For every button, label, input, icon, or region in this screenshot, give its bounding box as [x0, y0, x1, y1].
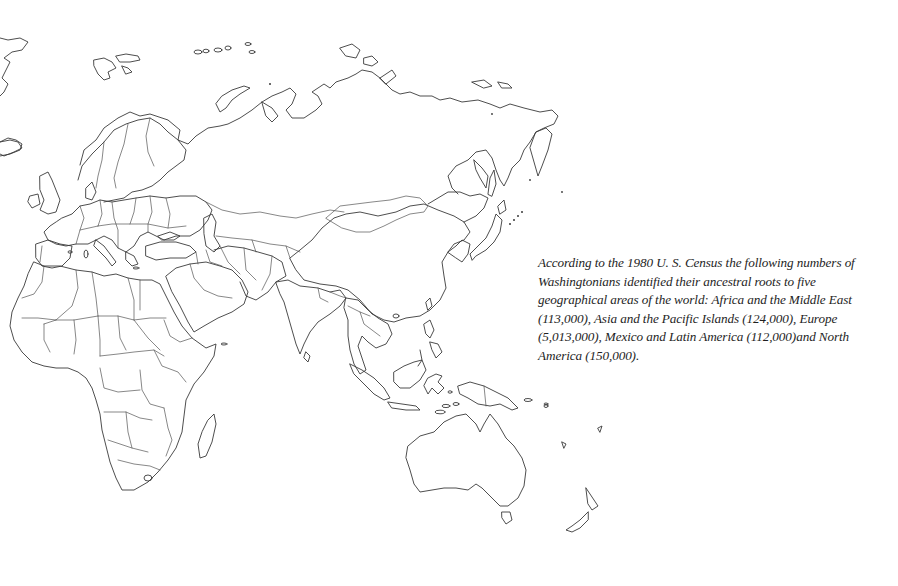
asia-outline	[276, 160, 506, 374]
greenland-outline	[0, 38, 28, 156]
arctic-islands	[194, 43, 512, 89]
kamchatka-outline	[530, 128, 552, 176]
eurasia-north-coast	[80, 70, 558, 194]
middle-east-outline	[166, 246, 286, 345]
yamal-peninsula	[262, 102, 278, 122]
pacific-island-dots	[269, 83, 563, 225]
novaya-zemlya	[216, 86, 250, 112]
taymyr	[380, 70, 396, 84]
iceland-outline	[0, 140, 22, 156]
indonesia-philippines-outline	[350, 320, 548, 414]
africa-outline	[10, 262, 216, 490]
census-caption: According to the 1980 U. S. Census the f…	[538, 254, 874, 366]
australia-outline	[406, 403, 602, 532]
central-asia-borders	[206, 202, 344, 258]
svalbard-outline	[94, 54, 140, 80]
